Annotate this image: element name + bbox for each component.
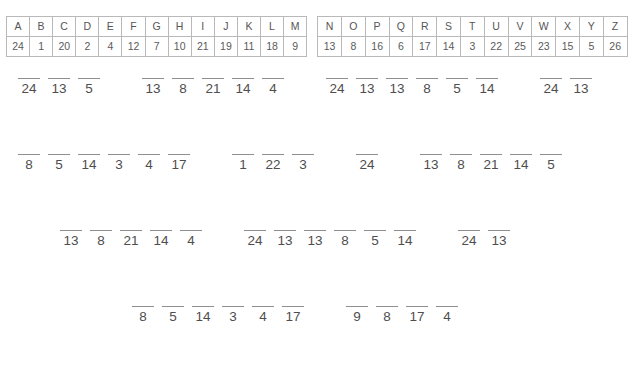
answer-blank-line[interactable] [222,306,244,307]
cipher-blank-cell[interactable]: 13 [416,154,446,172]
answer-blank-line[interactable] [142,78,164,79]
answer-blank-line[interactable] [406,306,428,307]
cipher-blank-cell[interactable]: 8 [412,78,442,96]
cipher-blank-cell[interactable]: 5 [158,306,188,324]
cipher-blank-cell[interactable]: 4 [176,230,206,248]
cipher-blank-cell[interactable]: 17 [402,306,432,324]
answer-blank-line[interactable] [162,306,184,307]
cipher-blank-cell[interactable]: 21 [116,230,146,248]
answer-blank-line[interactable] [476,78,498,79]
cipher-blank-cell[interactable]: 17 [278,306,308,324]
cipher-blank-cell[interactable]: 13 [484,230,514,248]
answer-blank-line[interactable] [48,78,70,79]
cipher-blank-cell[interactable]: 21 [198,78,228,96]
answer-blank-line[interactable] [450,154,472,155]
cipher-blank-cell[interactable]: 14 [472,78,502,96]
answer-blank-line[interactable] [90,230,112,231]
answer-blank-line[interactable] [48,154,70,155]
answer-blank-line[interactable] [446,78,468,79]
cipher-blank-cell[interactable]: 1 [228,154,258,172]
cipher-blank-cell[interactable]: 8 [446,154,476,172]
cipher-blank-cell[interactable]: 8 [168,78,198,96]
answer-blank-line[interactable] [376,306,398,307]
answer-blank-line[interactable] [458,230,480,231]
cipher-blank-cell[interactable]: 5 [536,154,566,172]
cipher-blank-cell[interactable]: 3 [218,306,248,324]
cipher-blank-cell[interactable]: 14 [188,306,218,324]
cipher-blank-cell[interactable]: 13 [382,78,412,96]
cipher-blank-cell[interactable]: 21 [476,154,506,172]
answer-blank-line[interactable] [168,154,190,155]
cipher-blank-cell[interactable]: 14 [146,230,176,248]
answer-blank-line[interactable] [436,306,458,307]
answer-blank-line[interactable] [120,230,142,231]
answer-blank-line[interactable] [262,78,284,79]
answer-blank-line[interactable] [416,78,438,79]
answer-blank-line[interactable] [232,154,254,155]
cipher-blank-cell[interactable]: 14 [390,230,420,248]
answer-blank-line[interactable] [346,306,368,307]
cipher-blank-cell[interactable]: 13 [352,78,382,96]
cipher-blank-cell[interactable]: 8 [14,154,44,172]
answer-blank-line[interactable] [192,306,214,307]
cipher-blank-cell[interactable]: 22 [258,154,288,172]
cipher-blank-cell[interactable]: 24 [322,78,352,96]
cipher-blank-cell[interactable]: 4 [134,154,164,172]
answer-blank-line[interactable] [252,306,274,307]
answer-blank-line[interactable] [540,78,562,79]
answer-blank-line[interactable] [180,230,202,231]
answer-blank-line[interactable] [78,154,100,155]
answer-blank-line[interactable] [356,154,378,155]
answer-blank-line[interactable] [364,230,386,231]
answer-blank-line[interactable] [274,230,296,231]
cipher-blank-cell[interactable]: 13 [300,230,330,248]
answer-blank-line[interactable] [138,154,160,155]
answer-blank-line[interactable] [386,78,408,79]
cipher-blank-cell[interactable]: 3 [288,154,318,172]
answer-blank-line[interactable] [244,230,266,231]
answer-blank-line[interactable] [282,306,304,307]
answer-blank-line[interactable] [78,78,100,79]
answer-blank-line[interactable] [232,78,254,79]
answer-blank-line[interactable] [488,230,510,231]
cipher-blank-cell[interactable]: 4 [432,306,462,324]
answer-blank-line[interactable] [570,78,592,79]
answer-blank-line[interactable] [334,230,356,231]
answer-blank-line[interactable] [420,154,442,155]
cipher-blank-cell[interactable]: 24 [352,154,382,172]
cipher-blank-cell[interactable]: 13 [44,78,74,96]
answer-blank-line[interactable] [108,154,130,155]
answer-blank-line[interactable] [292,154,314,155]
answer-blank-line[interactable] [480,154,502,155]
cipher-blank-cell[interactable]: 13 [56,230,86,248]
cipher-blank-cell[interactable]: 4 [248,306,278,324]
answer-blank-line[interactable] [356,78,378,79]
answer-blank-line[interactable] [262,154,284,155]
answer-blank-line[interactable] [60,230,82,231]
answer-blank-line[interactable] [326,78,348,79]
cipher-blank-cell[interactable]: 4 [258,78,288,96]
cipher-blank-cell[interactable]: 8 [330,230,360,248]
cipher-blank-cell[interactable]: 5 [360,230,390,248]
answer-blank-line[interactable] [150,230,172,231]
answer-blank-line[interactable] [132,306,154,307]
cipher-blank-cell[interactable]: 13 [566,78,596,96]
cipher-blank-cell[interactable]: 9 [342,306,372,324]
cipher-blank-cell[interactable]: 17 [164,154,194,172]
cipher-blank-cell[interactable]: 13 [138,78,168,96]
cipher-blank-cell[interactable]: 14 [506,154,536,172]
answer-blank-line[interactable] [394,230,416,231]
answer-blank-line[interactable] [510,154,532,155]
answer-blank-line[interactable] [172,78,194,79]
cipher-blank-cell[interactable]: 24 [536,78,566,96]
cipher-blank-cell[interactable]: 8 [86,230,116,248]
cipher-blank-cell[interactable]: 5 [74,78,104,96]
cipher-blank-cell[interactable]: 14 [228,78,258,96]
cipher-blank-cell[interactable]: 14 [74,154,104,172]
cipher-blank-cell[interactable]: 13 [270,230,300,248]
answer-blank-line[interactable] [18,78,40,79]
cipher-blank-cell[interactable]: 5 [44,154,74,172]
answer-blank-line[interactable] [18,154,40,155]
answer-blank-line[interactable] [540,154,562,155]
answer-blank-line[interactable] [202,78,224,79]
